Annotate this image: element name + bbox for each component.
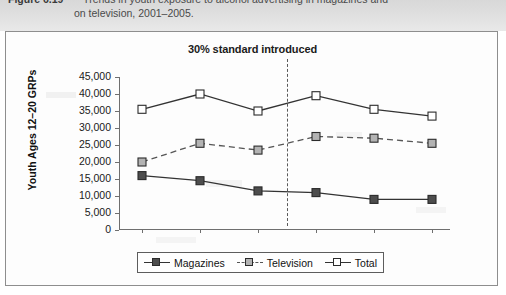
y-tick-label: 25,000 xyxy=(63,138,111,150)
figure-caption-text-line-1: Trends in youth exposure to alcohol adve… xyxy=(83,0,388,5)
data-point-magazines-2006 xyxy=(428,195,436,203)
data-point-television-2003 xyxy=(254,146,262,154)
y-tick-label: 15,000 xyxy=(63,172,111,184)
y-tick-label: 20,000 xyxy=(63,155,111,167)
y-tick-label: 30,000 xyxy=(63,121,111,133)
legend-entry-television[interactable]: Television xyxy=(235,257,315,269)
figure-caption-text-line-2: on television, 2001–2005. xyxy=(8,7,502,21)
data-point-total-2005 xyxy=(370,105,378,113)
y-tick-label: 5,000 xyxy=(63,206,111,218)
y-tick-label: 40,000 xyxy=(63,87,111,99)
y-axis-label: Youth Ages 12–20 GRPs xyxy=(26,50,38,210)
data-point-television-2002 xyxy=(196,139,204,147)
data-point-total-2001 xyxy=(138,105,146,113)
chart-legend: MagazinesTelevisionTotal xyxy=(137,252,384,273)
data-point-total-2002 xyxy=(196,90,204,98)
figure-caption-band: Figure 6.19 Trends in youth exposure to … xyxy=(0,0,506,31)
data-point-magazines-2003 xyxy=(254,187,262,195)
legend-label: Magazines xyxy=(174,257,225,269)
data-point-television-2005 xyxy=(370,134,378,142)
data-point-magazines-2001 xyxy=(138,172,146,180)
data-point-total-2004 xyxy=(312,92,320,100)
legend-swatch-magazines-icon xyxy=(144,258,170,267)
data-point-total-2003 xyxy=(254,107,262,115)
plot-area: 05,00010,00015,00020,00025,00030,00035,0… xyxy=(119,77,449,229)
annotation-vertical-dashed-line xyxy=(287,59,288,226)
legend-label: Television xyxy=(267,257,313,269)
data-point-magazines-2004 xyxy=(312,189,320,197)
legend-entry-total[interactable]: Total xyxy=(323,257,379,269)
chart-title: 30% standard introduced xyxy=(6,43,499,55)
y-tick-label: 10,000 xyxy=(63,189,111,201)
y-tick: 0 xyxy=(115,230,119,231)
legend-swatch-television-icon xyxy=(237,258,263,267)
data-point-television-2006 xyxy=(428,139,436,147)
y-tick-label: 45,000 xyxy=(63,70,111,82)
legend-label: Total xyxy=(355,257,377,269)
series-plot xyxy=(119,77,450,230)
data-point-television-2004 xyxy=(312,133,320,141)
chart-frame: 30% standard introduced Youth Ages 12–20… xyxy=(5,31,498,286)
legend-swatch-total-icon xyxy=(325,258,351,267)
y-tick-label: 0 xyxy=(63,223,111,235)
data-point-television-2001 xyxy=(138,158,146,166)
data-point-magazines-2002 xyxy=(196,177,204,185)
legend-entry-magazines[interactable]: Magazines xyxy=(142,257,227,269)
data-point-magazines-2005 xyxy=(370,195,378,203)
y-tick-label: 35,000 xyxy=(63,104,111,116)
figure-number-label: Figure 6.19 xyxy=(8,0,63,5)
data-point-total-2006 xyxy=(428,112,436,120)
